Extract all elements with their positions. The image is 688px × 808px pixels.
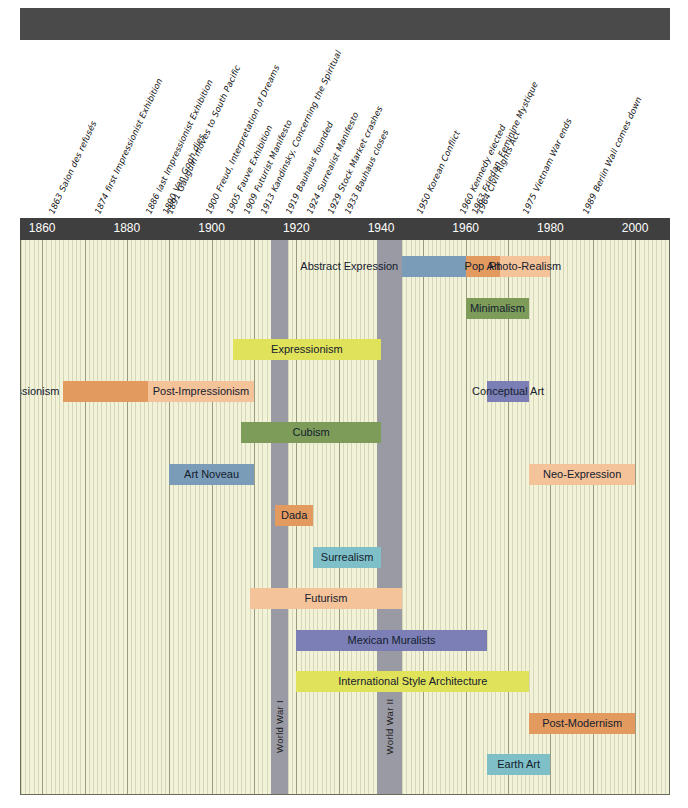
gridline xyxy=(572,240,573,794)
gridline xyxy=(123,240,124,794)
gridline xyxy=(449,240,450,794)
gridline xyxy=(38,240,39,794)
movement-bar[interactable]: Cubism xyxy=(241,422,381,443)
gridline xyxy=(533,240,534,794)
movement-bar[interactable]: Post-Modernism xyxy=(529,713,635,734)
gridline xyxy=(529,240,530,794)
gridline xyxy=(59,240,60,794)
gridline xyxy=(317,240,318,794)
gridline xyxy=(195,240,196,794)
gridline xyxy=(466,240,467,794)
gridline xyxy=(500,240,501,794)
movement-bar[interactable]: Earth Art xyxy=(487,754,551,775)
gridline xyxy=(461,240,462,794)
gridline xyxy=(364,240,365,794)
movement-bar[interactable]: Post-Impressionism xyxy=(148,381,254,402)
gridline xyxy=(114,240,115,794)
gridline xyxy=(555,240,556,794)
gridline xyxy=(85,240,86,794)
gridline xyxy=(491,240,492,794)
movement-bar[interactable]: Conceptual Art xyxy=(487,381,529,402)
axis-tick-label: 1880 xyxy=(114,221,141,235)
war-band-label: World War I xyxy=(274,700,285,753)
gridline xyxy=(127,240,128,794)
gridline xyxy=(29,240,30,794)
movement-bar[interactable]: International Style Architecture xyxy=(296,671,529,692)
movement-bar[interactable]: Abstract Expression xyxy=(402,256,466,277)
gridline xyxy=(326,240,327,794)
gridline xyxy=(63,240,64,794)
movement-bar[interactable]: Mexican Muralists xyxy=(296,630,487,651)
gridline xyxy=(589,240,590,794)
gridline xyxy=(567,240,568,794)
gridline xyxy=(161,240,162,794)
gridline xyxy=(453,240,454,794)
gridline xyxy=(605,240,606,794)
gridline xyxy=(631,240,632,794)
gridline xyxy=(665,240,666,794)
axis-tick-label: 1860 xyxy=(29,221,56,235)
gridline xyxy=(652,240,653,794)
movement-label: Art Noveau xyxy=(184,469,239,480)
gridline xyxy=(419,240,420,794)
event-label: 1863 Salon des refusés xyxy=(47,119,98,215)
war-band: World War II xyxy=(377,240,402,794)
gridline xyxy=(347,240,348,794)
gridline xyxy=(538,240,539,794)
gridline xyxy=(258,240,259,794)
gridline xyxy=(368,240,369,794)
gridline xyxy=(512,240,513,794)
movement-bar[interactable]: Futurism xyxy=(250,588,402,609)
gridline xyxy=(80,240,81,794)
gridline xyxy=(190,240,191,794)
gridline xyxy=(220,240,221,794)
gridline xyxy=(656,240,657,794)
movement-bar[interactable]: Surrealism xyxy=(313,547,381,568)
gridline xyxy=(517,240,518,794)
movement-bar[interactable]: Impressionism xyxy=(63,381,148,402)
event-labels-layer: 1863 Salon des refusés1874 first Impress… xyxy=(0,48,688,215)
gridline xyxy=(144,240,145,794)
gridline xyxy=(42,240,43,794)
gridline xyxy=(669,240,670,794)
gridline xyxy=(140,240,141,794)
gridline xyxy=(614,240,615,794)
gridline xyxy=(445,240,446,794)
gridline xyxy=(428,240,429,794)
gridline xyxy=(237,240,238,794)
gridline xyxy=(635,240,636,794)
movement-bar[interactable]: Neo-Expression xyxy=(529,464,635,485)
gridline xyxy=(216,240,217,794)
gridline xyxy=(186,240,187,794)
gridline xyxy=(508,240,509,794)
movement-bar[interactable]: Photo-Realism xyxy=(500,256,551,277)
gridline xyxy=(152,240,153,794)
axis-tick-label: 1920 xyxy=(283,221,310,235)
gridline xyxy=(495,240,496,794)
gridline xyxy=(648,240,649,794)
movement-bar[interactable]: Art Noveau xyxy=(169,464,254,485)
gridline xyxy=(639,240,640,794)
movement-label: Impressionism xyxy=(20,386,59,397)
gridline xyxy=(250,240,251,794)
movement-bar[interactable]: Minimalism xyxy=(466,298,530,319)
gridline xyxy=(233,240,234,794)
movement-bar[interactable]: Expressionism xyxy=(233,339,381,360)
movement-label: Neo-Expression xyxy=(543,469,621,480)
event-label: 1975 Vietnam War ends xyxy=(522,117,574,215)
movement-bar[interactable]: Dada xyxy=(275,505,313,526)
gridline xyxy=(46,240,47,794)
gridline xyxy=(542,240,543,794)
timeline-plot-area: World War IWorld War IIAbstract Expressi… xyxy=(20,240,670,795)
gridline xyxy=(313,240,314,794)
gridline xyxy=(25,240,26,794)
gridline xyxy=(440,240,441,794)
gridline xyxy=(182,240,183,794)
movement-label: Futurism xyxy=(305,593,348,604)
gridline xyxy=(661,240,662,794)
event-label: 1989 Berlin Wall comes down xyxy=(581,95,643,215)
gridline xyxy=(436,240,437,794)
gridline xyxy=(212,240,213,794)
gridline xyxy=(148,240,149,794)
gridline xyxy=(360,240,361,794)
